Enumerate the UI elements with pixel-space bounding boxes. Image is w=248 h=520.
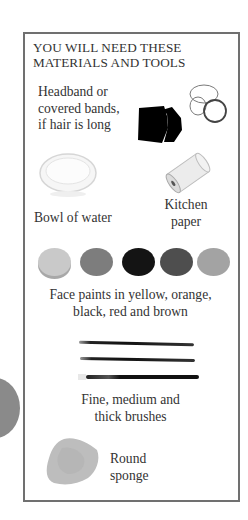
- label-line: Round: [110, 451, 149, 468]
- headband-and-bands-icon: [134, 80, 234, 150]
- kitchen-paper-label: Kitchen paper: [155, 197, 217, 230]
- paint-swatch-black: [122, 248, 155, 276]
- label-line: paper: [155, 214, 217, 231]
- title-line-2: MATERIALS AND TOOLS: [33, 55, 185, 70]
- paint-swatch-red: [160, 248, 193, 276]
- label-line: Bowl of water: [34, 210, 112, 227]
- label-line: Fine, medium and: [24, 392, 237, 409]
- headband-label: Headband or covered bands, if hair is lo…: [38, 84, 120, 134]
- paint-swatch-yellow: [38, 248, 71, 276]
- paint-swatch-orange: [80, 248, 113, 276]
- kitchen-paper-roll-icon: [162, 150, 214, 196]
- label-line: thick brushes: [24, 409, 237, 426]
- brushes-label: Fine, medium and thick brushes: [24, 392, 237, 425]
- label-line: covered bands,: [38, 101, 120, 118]
- title-line-1: YOU WILL NEED THESE: [33, 40, 185, 55]
- thick-brush-bristles: [78, 374, 86, 380]
- partial-decorative-circle: [0, 378, 20, 438]
- paint-swatch-brown: [197, 248, 230, 276]
- label-line: Headband or: [38, 84, 120, 101]
- bowl-of-water-icon: [38, 153, 98, 198]
- face-paints-label: Face paints in yellow, orange, black, re…: [24, 287, 237, 320]
- label-line: Face paints in yellow, orange,: [24, 287, 237, 304]
- sponge-label: Round sponge: [110, 451, 149, 484]
- round-sponge-icon: [44, 436, 102, 488]
- label-line: sponge: [110, 468, 149, 485]
- bowl-label: Bowl of water: [34, 210, 112, 227]
- label-line: Kitchen: [155, 197, 217, 214]
- thick-brush: [86, 375, 199, 379]
- panel-title: YOU WILL NEED THESE MATERIALS AND TOOLS: [33, 40, 185, 70]
- label-line: black, red and brown: [24, 304, 237, 321]
- label-line: if hair is long: [38, 117, 120, 134]
